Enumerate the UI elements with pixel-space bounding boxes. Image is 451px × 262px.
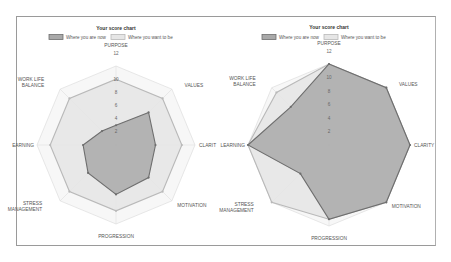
data-point[interactable] [385,87,387,89]
tick-label: 2 [115,129,118,134]
legend-label-want[interactable]: Where you want to be [128,35,173,40]
axis-label-clarity: CLARITY [414,143,435,148]
tick-label: 12 [113,51,119,56]
data-point[interactable] [290,106,292,108]
radar-chart-2: Your score chartWhere you are nowWhere y… [219,24,435,241]
data-point[interactable] [271,201,273,203]
axis-label-progression: PROGRESSION [311,236,347,241]
tick-label: 12 [326,49,332,54]
axis-label-learning: EARNING [12,143,34,148]
tick-label: 4 [115,116,118,121]
legend-label-want[interactable]: Where you want to be [341,35,386,40]
legend-swatch-now[interactable] [262,35,276,40]
chart-title: Your score chart [309,24,349,30]
tick-label: 6 [328,102,331,107]
data-point[interactable] [87,172,89,174]
data-point[interactable] [115,124,117,126]
data-point[interactable] [275,91,277,93]
data-point[interactable] [147,111,149,113]
data-point[interactable] [247,144,249,146]
legend-label-now[interactable]: Where you are now [279,35,320,40]
tick-label: 10 [113,77,119,82]
tick-label: 8 [328,89,331,94]
tick-label: 8 [115,90,118,95]
tick-label: 4 [328,116,331,121]
data-point[interactable] [115,193,117,195]
data-point[interactable] [409,144,411,146]
data-point[interactable] [385,201,387,203]
radar-chart-1: Your score chartWhere you are nowWhere y… [8,25,216,239]
data-point[interactable] [147,176,149,178]
data-point[interactable] [328,63,330,65]
axis-label-values: VALUES [399,82,418,87]
axis-label-motivation: MOTIVATION [177,203,207,208]
axis-label-work-life-balance: WORK LIFEBALANCE [18,77,44,88]
tick-label: 10 [326,75,332,80]
axis-label-values: VALUES [185,83,204,88]
axis-label-stress-management: STRESSMANAGEMENT [8,201,42,212]
data-point[interactable] [101,130,103,132]
data-point[interactable] [181,144,183,146]
axis-label-work-life-balance: WORK LIFEBALANCE [229,76,255,87]
tick-label: 2 [328,129,331,134]
data-point[interactable] [328,218,330,220]
axis-label-clarity: CLARIT [199,143,216,148]
data-point[interactable] [68,97,70,99]
radar-charts: Your score chartWhere you are nowWhere y… [0,0,451,262]
legend-label-now[interactable]: Where you are now [66,35,107,40]
axis-label-stress-management: STRESSMANAGEMENT [219,202,253,213]
legend-swatch-want[interactable] [324,35,338,40]
data-point[interactable] [68,190,70,192]
legend-swatch-want[interactable] [111,35,125,40]
data-point[interactable] [154,144,156,146]
data-point[interactable] [161,190,163,192]
chart-title: Your score chart [96,25,136,31]
data-point[interactable] [299,173,301,175]
data-point[interactable] [49,144,51,146]
axis-label-progression: PROGRESSION [98,234,134,239]
legend-swatch-now[interactable] [49,35,63,40]
axis-label-motivation: MOTIVATION [392,204,422,209]
axis-label-purpose: PURPOSE [104,43,127,48]
tick-label: 6 [115,103,118,108]
axis-label-learning: LEARNING [220,143,245,148]
data-point[interactable] [115,210,117,212]
data-point[interactable] [82,144,84,146]
data-point[interactable] [161,97,163,99]
axis-label-purpose: PURPOSE [317,41,340,46]
